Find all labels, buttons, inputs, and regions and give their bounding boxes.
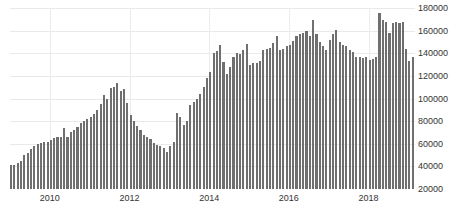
bar	[63, 128, 65, 189]
bar	[405, 49, 407, 189]
bar	[149, 139, 151, 189]
bar	[199, 94, 201, 189]
bar	[186, 121, 188, 189]
bar	[80, 123, 82, 189]
bar	[319, 42, 321, 189]
bar	[329, 40, 331, 189]
bar	[252, 63, 254, 189]
bar	[312, 20, 314, 189]
bar	[23, 155, 25, 189]
bar	[96, 110, 98, 189]
bar	[236, 53, 238, 189]
bar	[209, 72, 211, 189]
bar	[222, 62, 224, 189]
bar	[56, 137, 58, 189]
bar	[262, 50, 264, 189]
bar	[408, 61, 410, 189]
bar	[33, 146, 35, 189]
bar	[40, 143, 42, 189]
bar	[352, 52, 354, 189]
bar	[249, 65, 251, 189]
bar	[315, 34, 317, 189]
bar	[50, 140, 52, 189]
bar	[10, 165, 12, 189]
y-tick-label: 60000	[418, 139, 443, 148]
bar	[289, 45, 291, 189]
bar	[90, 117, 92, 189]
bar	[166, 152, 168, 189]
bar	[70, 132, 72, 189]
bar	[239, 54, 241, 189]
bar	[216, 51, 218, 189]
x-tick-label: 2014	[199, 193, 219, 203]
bar	[86, 119, 88, 189]
bar	[116, 83, 118, 189]
bar	[153, 143, 155, 189]
bar	[226, 74, 228, 189]
bar	[136, 126, 138, 189]
bars-series	[10, 8, 415, 189]
bar	[103, 95, 105, 189]
bar	[139, 130, 141, 189]
bar	[73, 130, 75, 189]
bar	[392, 23, 394, 189]
y-tick-label: 160000	[418, 26, 448, 35]
y-tick-label: 80000	[418, 117, 443, 126]
bar	[206, 78, 208, 189]
bar	[130, 115, 132, 189]
bar	[93, 114, 95, 189]
bar	[193, 102, 195, 189]
bar	[83, 121, 85, 189]
bar	[359, 57, 361, 189]
bar	[196, 99, 198, 190]
bar	[395, 22, 397, 189]
bar	[332, 34, 334, 189]
x-axis: 20102012201420162018	[0, 193, 469, 213]
x-tick-label: 2012	[119, 193, 139, 203]
y-tick-label: 140000	[418, 49, 448, 58]
bar	[276, 36, 278, 189]
bar	[295, 36, 297, 189]
y-tick-label: 40000	[418, 162, 443, 171]
bar	[339, 42, 341, 189]
y-tick-label: 180000	[418, 4, 448, 13]
bar	[20, 161, 22, 189]
bar	[349, 50, 351, 189]
bar	[53, 138, 55, 189]
bar	[213, 53, 215, 189]
bar	[179, 117, 181, 189]
bar	[123, 89, 125, 189]
bar	[398, 23, 400, 189]
bar	[365, 57, 367, 189]
plot-area	[10, 8, 415, 189]
bar	[259, 61, 261, 189]
bar	[60, 137, 62, 189]
y-tick-label: 100000	[418, 94, 448, 103]
bar	[159, 146, 161, 189]
bar	[27, 153, 29, 189]
bar	[345, 46, 347, 189]
bar	[183, 125, 185, 189]
bar	[282, 49, 284, 189]
bar	[355, 57, 357, 189]
bar	[242, 50, 244, 189]
x-tick-label: 2018	[359, 193, 379, 203]
bar	[305, 31, 307, 189]
y-axis: 2000040000600008000010000012000014000016…	[418, 0, 469, 216]
bar-chart: 2000040000600008000010000012000014000016…	[0, 0, 469, 216]
bar	[189, 105, 191, 189]
bar	[113, 87, 115, 189]
bar	[299, 34, 301, 189]
bar	[37, 144, 39, 189]
bar	[342, 45, 344, 189]
x-tick-label: 2010	[40, 193, 60, 203]
bar	[402, 22, 404, 189]
bar	[133, 121, 135, 189]
bar	[272, 43, 274, 189]
bar	[173, 142, 175, 190]
bar	[256, 63, 258, 189]
bar	[146, 137, 148, 189]
bar	[325, 50, 327, 189]
bar	[372, 59, 374, 189]
bar	[322, 46, 324, 189]
